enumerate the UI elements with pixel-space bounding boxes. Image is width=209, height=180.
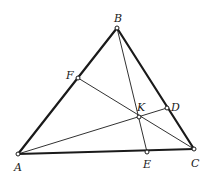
side-BC <box>117 28 194 149</box>
side-CA <box>18 149 194 154</box>
point-A-marker <box>16 152 20 156</box>
point-C-marker <box>192 147 196 151</box>
point-F-marker <box>76 76 80 80</box>
vertex-points <box>16 26 196 156</box>
label-E: E <box>142 158 151 171</box>
label-C: C <box>191 157 200 170</box>
label-K: K <box>136 101 146 114</box>
point-B-marker <box>115 26 119 30</box>
point-K-marker <box>137 115 141 119</box>
cevian-BE <box>117 28 147 152</box>
point-D-marker <box>165 106 169 110</box>
point-E-marker <box>145 150 149 154</box>
cevian-lines <box>18 28 194 154</box>
label-F: F <box>65 69 74 82</box>
label-A: A <box>13 161 22 174</box>
side-AB <box>18 28 117 154</box>
triangle-diagram: ABCDEFK <box>0 0 209 180</box>
cevian-AD <box>18 108 167 154</box>
label-B: B <box>113 12 122 25</box>
triangle-sides <box>18 28 194 154</box>
label-D: D <box>170 101 180 114</box>
